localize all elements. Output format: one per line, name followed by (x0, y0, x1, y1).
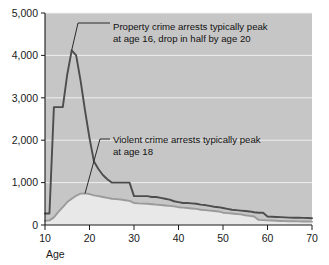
x-tick-label-10: 10 (39, 232, 51, 244)
y-tick-label-5000: 5,000 (12, 7, 38, 19)
y-tick-label-3000: 3,000 (12, 92, 38, 104)
x-tick-label-60: 60 (262, 232, 274, 244)
x-tick-label-40: 40 (173, 232, 185, 244)
x-tick-label-20: 20 (84, 232, 96, 244)
chart-svg: 10203040506070 01,0002,0003,0004,0005,00… (0, 0, 329, 265)
y-tick-label-0: 0 (32, 219, 38, 231)
x-tick-label-30: 30 (128, 232, 140, 244)
x-tick-label-50: 50 (217, 232, 229, 244)
y-tick-label-2000: 2,000 (12, 134, 38, 146)
crime-arrests-by-age-chart: 10203040506070 01,0002,0003,0004,0005,00… (0, 0, 329, 265)
violent-annotation-line1: Violent crime arrests typically peak (113, 134, 261, 145)
x-axis-title: Age (46, 248, 65, 260)
violent-annotation-line2: at age 18 (113, 146, 153, 157)
x-tick-label-70: 70 (306, 232, 318, 244)
y-tick-label-4000: 4,000 (12, 49, 38, 61)
property-annotation-line1: Property crime arrests typically peak (113, 21, 268, 32)
y-tick-label-1000: 1,000 (12, 176, 38, 188)
property-annotation-line2: at age 16, drop in half by age 20 (113, 33, 251, 44)
